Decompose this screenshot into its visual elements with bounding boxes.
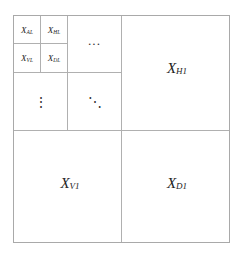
subband-label-hl: XHL bbox=[48, 25, 60, 35]
subband-label-d1: XD1 bbox=[167, 175, 187, 192]
divider-vertical-main bbox=[121, 16, 122, 242]
divider-vertical-eighth bbox=[40, 16, 41, 72]
ellipsis-horizontal: ··· bbox=[88, 36, 101, 52]
subband-label-h1: XH1 bbox=[167, 60, 187, 77]
subband-label-vl: XVL bbox=[21, 53, 33, 63]
divider-vertical-quarter bbox=[67, 16, 68, 130]
ellipsis-vertical: ⋮ bbox=[34, 94, 48, 111]
wavelet-decomposition-diagram: XAL XHL XVL XDL ··· ⋮ ⋱ XH1 XV1 XD1 bbox=[13, 15, 230, 243]
divider-horizontal-eighth bbox=[14, 43, 67, 44]
divider-horizontal-main bbox=[14, 130, 229, 131]
subband-label-al: XAL bbox=[21, 25, 33, 35]
subband-label-dl: XDL bbox=[48, 53, 60, 63]
divider-horizontal-quarter bbox=[14, 72, 121, 73]
subband-label-v1: XV1 bbox=[60, 175, 79, 192]
ellipsis-diagonal: ⋱ bbox=[88, 94, 102, 111]
